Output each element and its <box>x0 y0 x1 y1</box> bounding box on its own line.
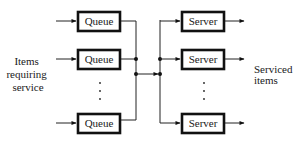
queue-box-2: Queue <box>78 50 120 69</box>
server-box-1: Server <box>182 12 224 31</box>
queue-ellipsis <box>99 82 101 100</box>
server-box-3: Server <box>182 114 224 133</box>
queue-box-1: Queue <box>78 12 120 31</box>
queue-box-3: Queue <box>78 114 120 133</box>
svg-text:Queue: Queue <box>85 117 114 129</box>
svg-text:Server: Server <box>189 117 218 129</box>
server-ellipsis <box>203 82 205 100</box>
input-label: Items requiring service <box>6 55 49 93</box>
svg-text:Queue: Queue <box>85 53 114 65</box>
server-box-2: Server <box>182 50 224 69</box>
junction-dot <box>158 72 162 76</box>
output-label: Serviced items <box>254 63 295 86</box>
junction-dot <box>134 57 138 61</box>
queue-server-diagram: Items requiring service Queue Queue Queu… <box>0 0 304 142</box>
svg-text:Queue: Queue <box>85 15 114 27</box>
svg-text:Server: Server <box>189 15 218 27</box>
svg-text:Server: Server <box>189 53 218 65</box>
queue-collector-bus <box>121 21 136 120</box>
